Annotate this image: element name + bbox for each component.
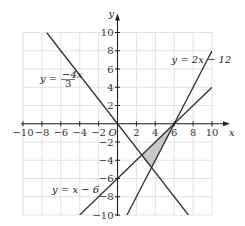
y-tick-label: 8: [107, 45, 113, 56]
x-tick-label: 4: [152, 127, 158, 138]
x-axis-arrow-icon: [223, 121, 230, 126]
y-tick-label: 10: [101, 27, 114, 38]
label-line-2x-12: y = 2x − 12: [170, 54, 231, 65]
x-tick-label: 2: [133, 127, 139, 138]
x-tick-label: 6: [171, 127, 177, 138]
chart: −10−8−6−4−2246810108642−2−4−6−8−10Oxy y …: [0, 0, 245, 226]
y-tick-label: 4: [107, 82, 113, 93]
svg-text:y =: y =: [39, 73, 57, 84]
x-tick-label: −6: [53, 127, 68, 138]
x-tick-label: 8: [190, 127, 196, 138]
label-line-x-6: y = x − 6: [51, 184, 100, 195]
y-axis-label: y: [108, 8, 115, 19]
y-tick-label: −4: [99, 155, 114, 166]
x-tick-label: −4: [72, 127, 87, 138]
svg-text:3: 3: [65, 78, 71, 89]
x-tick-label: 10: [206, 127, 219, 138]
x-tick-label: −10: [12, 127, 33, 138]
x-tick-label: −8: [35, 127, 50, 138]
y-tick-label: −6: [99, 173, 114, 184]
y-tick-label: −10: [92, 210, 113, 221]
x-axis-label: x: [229, 127, 235, 138]
origin-label: O: [109, 127, 117, 138]
y-tick-label: 2: [107, 100, 113, 111]
line-labels: y = 2x − 12y =−4x3y = x − 6: [39, 54, 231, 195]
y-tick-label: −2: [99, 137, 114, 148]
y-axis-arrow-icon: [115, 14, 120, 21]
y-tick-label: 6: [107, 64, 113, 75]
y-tick-label: −8: [99, 191, 114, 202]
tick-labels: −10−8−6−4−2246810108642−2−4−6−8−10Oxy: [12, 8, 235, 221]
